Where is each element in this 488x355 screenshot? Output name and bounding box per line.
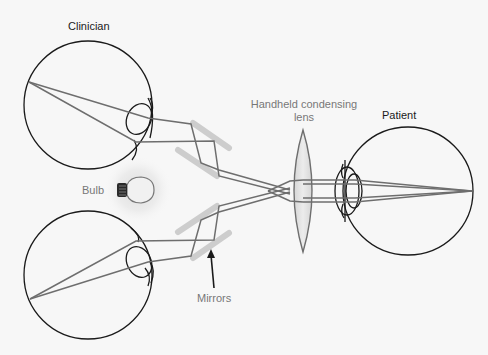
label-lens-line2: lens bbox=[244, 111, 364, 123]
label-lens-line1: Handheld condensing bbox=[244, 98, 364, 110]
patient-eye bbox=[335, 127, 473, 255]
label-bulb: Bulb bbox=[82, 184, 104, 196]
clinician-eye-lower bbox=[24, 211, 157, 339]
clinician-eye-upper bbox=[24, 41, 157, 169]
diagram-graphic bbox=[0, 0, 488, 355]
mirrors bbox=[178, 123, 229, 258]
condensing-lens bbox=[294, 130, 312, 252]
label-clinician: Clinician bbox=[68, 20, 110, 32]
ophthalmoscope-diagram: Clinician Handheld condensing lens Patie… bbox=[0, 0, 488, 355]
label-patient: Patient bbox=[382, 109, 416, 121]
mirrors-arrow-icon bbox=[207, 249, 215, 288]
label-mirrors: Mirrors bbox=[197, 292, 231, 304]
